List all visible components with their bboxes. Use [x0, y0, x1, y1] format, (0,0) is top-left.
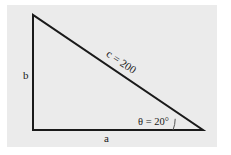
diagram-background	[7, 5, 217, 147]
angle-label: θ = 20°	[138, 116, 169, 127]
right-triangle-diagram: b a c = 200 θ = 20°	[0, 0, 231, 155]
side-b-label: b	[23, 69, 29, 81]
side-a-label: a	[104, 132, 109, 144]
